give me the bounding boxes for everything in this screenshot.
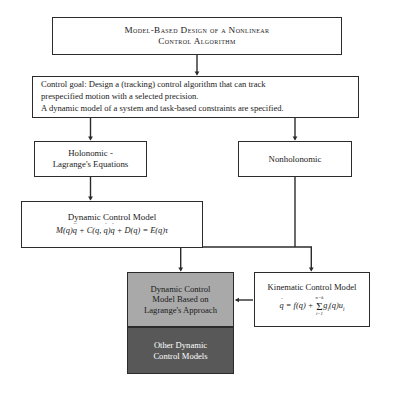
holonomic-line-2: Lagrange's Equations [53, 159, 129, 170]
eq-term-tau: τ [165, 226, 168, 235]
control-goal-box: Control goal: Design a (tracking) contro… [32, 76, 359, 118]
lagrange-approach-box: Dynamic Control Model Based on Lagrange'… [127, 272, 234, 327]
lagrange-approach-line-3: Lagrange's Approach [144, 305, 217, 315]
keq-sub-gi: i [327, 306, 329, 312]
eq-var-q4: q [158, 226, 162, 235]
lagrange-approach-line-2: Model Based on [152, 294, 208, 304]
summation-operator: n−k Σ i=1 [316, 296, 324, 317]
control-goal-line-3: A dynamic model of a system and task-bas… [41, 103, 284, 115]
eq-var-q1: q [66, 226, 70, 235]
kinematic-control-model-title: Kinematic Control Model [268, 282, 357, 292]
control-goal-line-2: prespecified motion with a selected prec… [41, 91, 199, 103]
dynamic-control-model-box: Dynamic Control Model M(q)··q + C(q, ·q)… [21, 201, 203, 248]
title-line-1: Model-Based Design of a Nonlinear [124, 25, 269, 36]
summation-lower-limit: i=1 [316, 312, 323, 317]
kinematic-control-model-box: Kinematic Control Model ·q = f(q) + n−k … [254, 272, 370, 327]
nonholonomic-box: Nonholonomic [238, 141, 352, 177]
lagrange-approach-line-1: Dynamic Control [151, 284, 211, 294]
eq-term-D: D [124, 226, 130, 235]
dot-accent-qdot: · [281, 296, 283, 303]
ddot-accent: ·· [73, 221, 77, 228]
control-goal-line-1: Control goal: Design a (tracking) contro… [41, 79, 266, 91]
eq-term-C: C [87, 226, 93, 235]
kinematic-control-model-equation: ·q = f(q) + n−k Σ i=1 gi(q)ui [280, 296, 345, 317]
nonholonomic-label: Nonholonomic [269, 154, 322, 165]
dot-accent-2: · [112, 221, 114, 228]
dynamic-control-model-equation: M(q)··q + C(q, ·q)·q + D(q) = E(q)τ [56, 226, 168, 236]
dot-accent-1: · [105, 221, 107, 228]
keq-term-f: f [294, 301, 296, 310]
eq-term-E: E [150, 226, 155, 235]
eq-var-q2: q [95, 226, 99, 235]
other-models-line-2: Control Models [153, 351, 207, 361]
holonomic-line-1: Holonomic - [68, 148, 113, 159]
keq-var-q1: q [299, 301, 303, 310]
keq-var-q2: q [332, 301, 336, 310]
keq-sub-ui: i [343, 306, 345, 312]
other-models-line-1: Other Dynamic [154, 340, 207, 350]
eq-var-q3: q [133, 226, 137, 235]
title-box: Model-Based Design of a Nonlinear Contro… [52, 17, 342, 55]
holonomic-box: Holonomic - Lagrange's Equations [34, 141, 147, 177]
other-dynamic-control-models-box: Other Dynamic Control Models [127, 327, 234, 374]
eq-term-M: M [56, 226, 63, 235]
title-line-2: Control Algorithm [158, 36, 235, 47]
